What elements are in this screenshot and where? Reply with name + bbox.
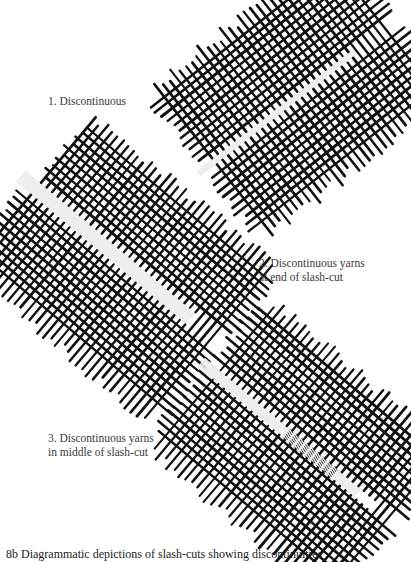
figure-caption: 8b Diagrammatic depictions of slash-cuts… — [6, 547, 322, 562]
woven-fabric-illustration — [196, 0, 411, 185]
fabric-diagram-1 — [196, 0, 411, 185]
fabric-diagram-2 — [4, 172, 240, 364]
label-line: 2. Discontinuous yarns — [259, 256, 365, 270]
diagram-label-2: 2. Discontinuous yarnsat end of slash-cu… — [259, 256, 365, 284]
fabric-diagram-3 — [190, 358, 411, 542]
label-line: 1. Discontinuous — [48, 94, 126, 108]
diagram-label-1: 1. Discontinuous — [48, 94, 126, 108]
woven-fabric-illustration — [4, 172, 240, 364]
label-line: at end of slash-cut — [259, 270, 365, 284]
label-line: in middle of slash-cut — [48, 445, 154, 459]
woven-fabric-illustration — [190, 358, 411, 542]
diagram-label-3: 3. Discontinuous yarnsin middle of slash… — [48, 431, 154, 459]
label-line: 3. Discontinuous yarns — [48, 431, 154, 445]
